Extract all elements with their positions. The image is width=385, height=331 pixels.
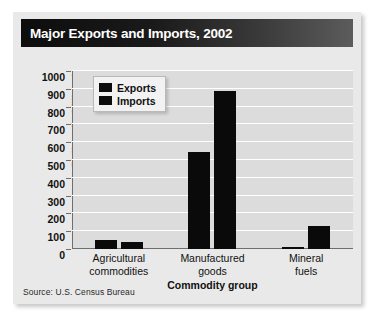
chart-title-bar: Major Exports and Imports, 2002 <box>21 19 353 47</box>
legend-item-imports: Imports <box>99 94 156 107</box>
bar-exports <box>282 247 304 249</box>
x-axis-tick-label-line: Agricultural <box>72 252 166 265</box>
x-axis-tick-label-line: Manufactured <box>166 252 260 265</box>
y-axis-tick-mark <box>66 213 71 214</box>
legend-swatch-icon <box>99 96 112 105</box>
y-axis-tick-mark <box>66 124 71 125</box>
bar-imports <box>214 91 236 249</box>
x-axis-tick-label-line: fuels <box>259 265 353 278</box>
bar-group <box>166 71 260 249</box>
y-axis-tick-mark <box>66 160 71 161</box>
y-axis-tick-mark <box>66 89 71 90</box>
bar-imports <box>121 242 143 249</box>
legend-item-exports: Exports <box>99 81 156 94</box>
x-axis-tick-label: Mineralfuels <box>259 252 353 277</box>
chart-page: Major Exports and Imports, 2002 Dollars … <box>0 0 385 331</box>
x-axis-tick-label: Agriculturalcommodities <box>72 252 166 277</box>
y-axis-tick-mark <box>66 178 71 179</box>
source-note: Source: U.S. Census Bureau <box>23 287 135 297</box>
x-axis-tick-label: Manufacturedgoods <box>166 252 260 277</box>
legend-label: Imports <box>117 95 156 107</box>
bar-exports <box>188 152 210 249</box>
chart-card: Major Exports and Imports, 2002 Dollars … <box>13 12 361 304</box>
bar-group <box>259 71 353 249</box>
bar-imports <box>308 226 330 249</box>
x-axis-tick-label-line: commodities <box>72 265 166 278</box>
y-axis-tick-mark <box>66 71 71 72</box>
bar-exports <box>95 240 117 249</box>
y-axis-tick-mark <box>66 142 71 143</box>
chart-legend: Exports Imports <box>93 76 166 112</box>
x-axis-tick-label-line: goods <box>166 265 260 278</box>
y-axis-tick-mark <box>66 107 71 108</box>
page-title: Major Exports and Imports, 2002 <box>21 26 232 41</box>
y-axis-tick-mark <box>66 196 71 197</box>
chart-area: Dollars (in billions) 010020030040050060… <box>21 52 353 295</box>
legend-label: Exports <box>117 82 156 94</box>
y-axis-tick-mark <box>66 231 71 232</box>
x-axis-tick-label-line: Mineral <box>259 252 353 265</box>
legend-swatch-icon <box>99 83 112 92</box>
y-axis-tick-mark <box>66 249 71 250</box>
